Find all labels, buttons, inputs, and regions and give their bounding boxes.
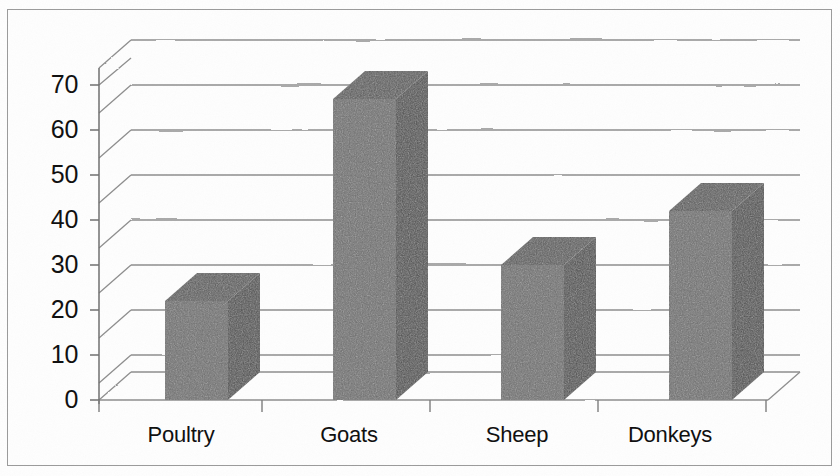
y-axis-line	[90, 68, 99, 404]
bar-goats-front	[333, 99, 396, 400]
bar-donkeys-side	[732, 183, 764, 400]
bar-donkeys-front	[669, 211, 732, 400]
bar-sheep	[501, 237, 596, 400]
bar-chart-graphic	[0, 0, 840, 476]
bar-poultry	[165, 273, 260, 400]
y-tick-label-40: 40	[18, 207, 78, 232]
depth-connector-lines	[99, 40, 131, 400]
bar-sheep-front	[501, 265, 564, 400]
y-tick-label-70: 70	[18, 72, 78, 97]
y-tick-label-50: 50	[18, 162, 78, 187]
y-tick-label-0: 0	[18, 387, 78, 412]
category-label-donkeys: Donkeys	[590, 424, 750, 446]
bar-poultry-front	[165, 301, 228, 400]
y-tick-label-10: 10	[18, 342, 78, 367]
bar-donkeys	[669, 183, 764, 400]
category-label-sheep: Sheep	[456, 424, 578, 446]
category-label-goats: Goats	[288, 424, 410, 446]
category-label-poultry: Poultry	[120, 424, 242, 446]
y-tick-label-60: 60	[18, 117, 78, 142]
bar-goats-side	[396, 71, 428, 400]
x-axis-category-ticks	[99, 400, 766, 412]
y-tick-label-30: 30	[18, 252, 78, 277]
bar-sheep-side	[564, 237, 596, 400]
y-tick-label-20: 20	[18, 297, 78, 322]
bar-goats	[333, 71, 428, 400]
chart-container: 70 60 50 40 30 20 10 0 Poultry Goats She…	[0, 0, 840, 476]
